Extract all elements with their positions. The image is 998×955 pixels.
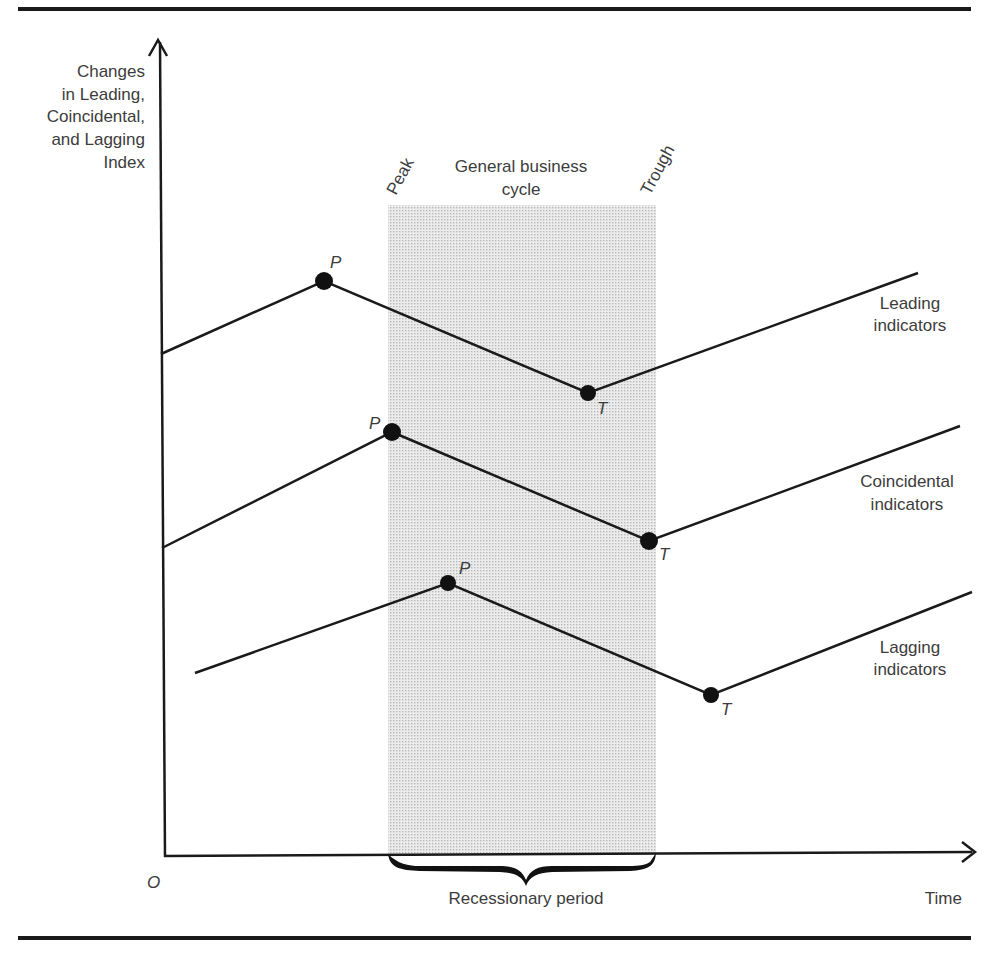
- svg-text:and Lagging: and Lagging: [51, 130, 145, 149]
- leading-peak-label: P: [330, 253, 342, 272]
- trough-marker: [640, 532, 658, 550]
- svg-text:Changes: Changes: [77, 62, 145, 81]
- lagging-trough-label: T: [721, 700, 733, 719]
- peak-marker: [315, 272, 333, 290]
- y-axis-arrow-icon: [149, 40, 167, 56]
- peak-marker: [440, 575, 456, 591]
- lagging-name-line1: Lagging: [880, 638, 941, 657]
- svg-text:in Leading,: in Leading,: [62, 85, 145, 104]
- coincidental-name-line2: indicators: [871, 495, 944, 514]
- peak-label: Peak: [383, 154, 418, 198]
- leading-name-line1: Leading: [880, 294, 941, 313]
- trough-label: Trough: [637, 142, 679, 198]
- cycle-title-line1: General business: [455, 157, 587, 176]
- origin-label: O: [147, 873, 160, 892]
- x-axis-label: Time: [925, 889, 962, 908]
- lagging-peak-label: P: [459, 559, 471, 578]
- recessionary-period-label: Recessionary period: [449, 889, 604, 908]
- recession-shaded-region: [388, 205, 656, 855]
- cycle-title-line2: cycle: [502, 180, 541, 199]
- peak-marker: [383, 423, 401, 441]
- business-cycle-diagram: Changes in Leading, Coincidental, and La…: [0, 0, 998, 955]
- lagging-name-line2: indicators: [874, 660, 947, 679]
- coincidental-trough-label: T: [659, 545, 671, 564]
- recession-brace-icon: [388, 853, 656, 886]
- trough-marker: [580, 385, 596, 401]
- bottom-rule: [18, 936, 971, 940]
- leading-name-line2: indicators: [874, 316, 947, 335]
- coincidental-peak-label: P: [369, 414, 381, 433]
- y-axis: [149, 40, 167, 857]
- trough-marker: [703, 687, 719, 703]
- top-rule: [18, 7, 971, 11]
- svg-text:Coincidental,: Coincidental,: [47, 107, 145, 126]
- svg-text:Index: Index: [103, 153, 145, 172]
- coincidental-name-line1: Coincidental: [860, 472, 954, 491]
- y-axis-label: Changes in Leading, Coincidental, and La…: [47, 62, 146, 172]
- leading-trough-label: T: [597, 399, 609, 418]
